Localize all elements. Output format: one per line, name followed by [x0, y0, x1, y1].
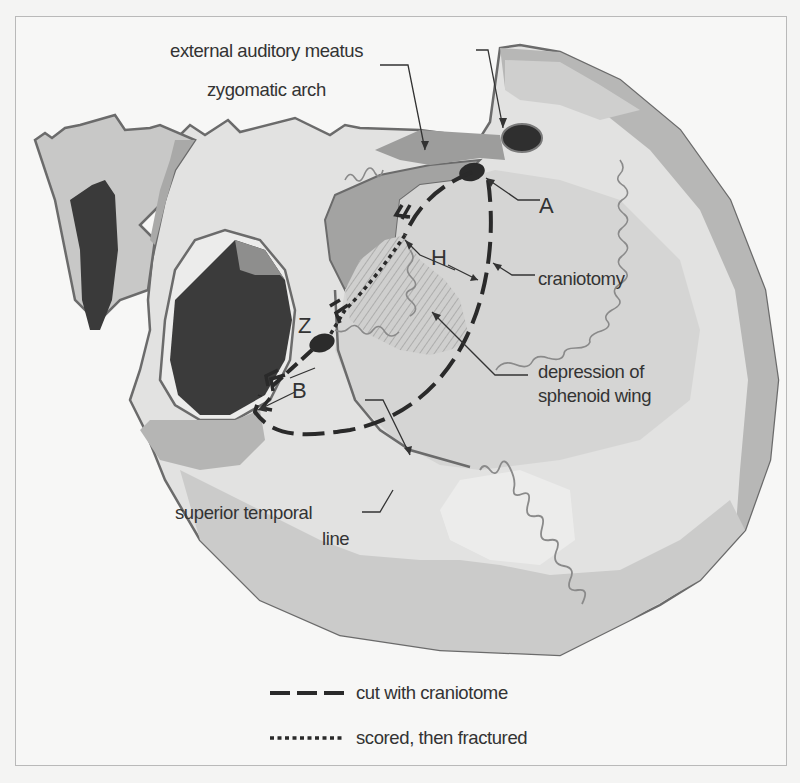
external-auditory-meatus	[502, 124, 542, 152]
label-superior-temporal-line2: line	[322, 528, 349, 549]
label-craniotomy: craniotomy	[538, 268, 626, 289]
legend: cut with craniotome scored, then fractur…	[270, 682, 527, 748]
legend-label-scored: scored, then fractured	[356, 727, 527, 748]
label-point-h: H	[431, 245, 447, 270]
label-point-a: A	[539, 193, 554, 218]
label-point-b: B	[292, 378, 307, 403]
label-depression-line2: sphenoid wing	[538, 385, 651, 406]
legend-label-cut: cut with craniotome	[356, 682, 508, 703]
label-external-auditory-meatus: external auditory meatus	[170, 40, 363, 61]
label-zygomatic-arch: zygomatic arch	[207, 79, 326, 100]
label-superior-temporal-line1: superior temporal	[175, 502, 312, 523]
label-point-z: Z	[298, 313, 311, 338]
skull-diagram: external auditory meatus zygomatic arch …	[0, 0, 800, 783]
label-depression-line1: depression of	[538, 361, 645, 382]
